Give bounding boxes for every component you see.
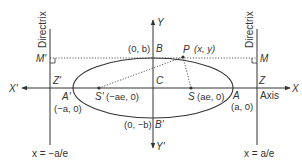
- point-p-label: P: [183, 44, 190, 55]
- point-z-prime-label: Z': [52, 75, 62, 86]
- y-neg-label: Y': [156, 141, 166, 152]
- point-b-label: B: [156, 43, 163, 54]
- right-directrix-equation: x = a/e: [244, 148, 275, 159]
- point-s: [189, 86, 192, 89]
- ellipse-diagram: Directrix Directrix X' X Y Y' Axis M' M …: [0, 0, 302, 167]
- point-s-label: S: [188, 91, 195, 102]
- point-m-label: M: [260, 53, 269, 64]
- point-a-coord: (a, 0): [231, 101, 253, 112]
- point-a-prime-coord: (−a, 0): [54, 103, 82, 114]
- point-p: [181, 55, 184, 58]
- left-directrix-equation: x = −a/e: [32, 148, 69, 159]
- point-m-prime-label: M': [36, 53, 47, 64]
- point-s-prime: [97, 86, 100, 89]
- point-b-prime-label: B': [155, 119, 165, 130]
- point-b-coord: (0, b): [128, 43, 150, 54]
- right-directrix-title: Directrix: [244, 11, 255, 48]
- point-a-label: A: [232, 90, 240, 101]
- point-s-coord: (ae, 0): [197, 91, 224, 102]
- y-pos-label: Y: [157, 17, 165, 28]
- axis-label: Axis: [260, 90, 279, 101]
- x-pos-label: X: [291, 83, 299, 94]
- point-s-prime-coord: (−ae, 0): [106, 91, 139, 102]
- point-c-label: C: [156, 75, 164, 86]
- line-s-prime-to-p: [99, 57, 183, 88]
- point-b-prime-coord: (0, −b): [124, 119, 152, 130]
- x-neg-label: X': [8, 83, 19, 94]
- point-z-label: Z: [258, 75, 266, 86]
- left-directrix-title: Directrix: [37, 11, 48, 48]
- left-right-angle-marker: [50, 58, 55, 63]
- right-right-angle-marker: [252, 58, 257, 63]
- point-s-prime-label: S': [95, 91, 105, 102]
- point-a-prime-label: A': [61, 91, 72, 102]
- point-p-coord: (x, y): [194, 43, 215, 54]
